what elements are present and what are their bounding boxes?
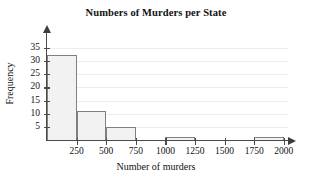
plot-area: 5101520253035 25050075010001250150017502… bbox=[0, 0, 312, 187]
x-axis-line bbox=[46, 140, 289, 141]
x-axis-tick-label: 2000 bbox=[264, 146, 304, 156]
x-axis-tick bbox=[136, 138, 137, 145]
y-axis-tick bbox=[44, 74, 50, 75]
y-axis-tick-label: 5 bbox=[8, 122, 40, 132]
x-axis-tick bbox=[225, 138, 226, 145]
gridline bbox=[47, 101, 288, 102]
histogram-bar bbox=[77, 111, 107, 140]
y-axis-arrow-icon bbox=[43, 25, 51, 33]
histogram-chart: Numbers of Murders per State 51015202530… bbox=[0, 0, 312, 187]
x-axis-tick bbox=[165, 138, 166, 145]
y-axis-title: Frequency bbox=[4, 48, 15, 120]
y-axis-tick bbox=[44, 87, 50, 88]
x-axis-tick bbox=[77, 138, 78, 145]
histogram-bar bbox=[47, 55, 77, 140]
gridline bbox=[47, 48, 288, 49]
gridline bbox=[47, 87, 288, 88]
y-axis-tick bbox=[44, 61, 50, 62]
x-axis-tick bbox=[106, 138, 107, 145]
x-axis-title: Number of murders bbox=[0, 161, 312, 172]
y-axis-tick bbox=[44, 101, 50, 102]
x-axis-tick bbox=[284, 138, 285, 145]
x-axis-tick bbox=[195, 138, 196, 145]
y-axis-tick bbox=[44, 48, 50, 49]
y-axis-tick bbox=[44, 114, 50, 115]
histogram-bar bbox=[106, 127, 136, 140]
y-axis-tick bbox=[44, 127, 50, 128]
x-axis-tick bbox=[254, 138, 255, 145]
x-axis-arrow-icon bbox=[288, 137, 296, 145]
gridline bbox=[47, 61, 288, 62]
gridline bbox=[47, 74, 288, 75]
